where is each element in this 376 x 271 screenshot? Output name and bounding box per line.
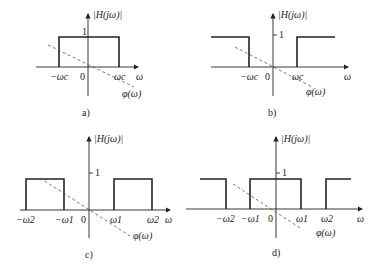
panel-d-bandstop: |H(jω)| 1 0 −ω2 −ω1 ω1 ω2 ω φ(ω) d) (186, 133, 364, 259)
x-axis-label: ω (357, 213, 364, 224)
caption-a: a) (82, 107, 90, 119)
phase-label: φ(ω) (316, 227, 336, 239)
panel-c-bandpass: |H(jω)| 1 0 −ω2 −ω1 ω1 ω2 ω φ(ω) c) (16, 133, 172, 261)
tick-neg-w2: −ω2 (16, 214, 35, 225)
magnitude-response-right (297, 37, 335, 67)
caption-d: d) (272, 247, 280, 259)
tick-neg-w1: −ω1 (241, 213, 260, 224)
tick-neg-wc: −ωc (50, 71, 69, 82)
magnitude-response-left (211, 37, 249, 67)
one-label: 1 (279, 29, 284, 40)
tick-w2: ω2 (321, 213, 333, 224)
magnitude-response-right (326, 179, 351, 209)
tick-w2: ω2 (147, 214, 159, 225)
phase-label: φ(ω) (122, 88, 142, 100)
filter-diagrams: |H(jω)| 1 0 −ωc ωc ω φ(ω) a) |H(jω)| 1 0… (0, 0, 376, 271)
x-axis-label: ω (165, 214, 172, 225)
phase-label: φ(ω) (306, 86, 326, 98)
one-label: 1 (95, 167, 100, 178)
tick-neg-w2: −ω2 (216, 213, 235, 224)
zero-label: 0 (265, 71, 270, 82)
magnitude-response-middle (250, 179, 301, 209)
phase-label: φ(ω) (133, 230, 153, 242)
y-axis-label: |H(jω)| (278, 9, 307, 21)
phase-response (40, 178, 130, 236)
x-axis-label: ω (136, 71, 143, 82)
tick-neg-wc: −ωc (240, 71, 259, 82)
zero-label: 0 (80, 71, 85, 82)
panel-a-lowpass: |H(jω)| 1 0 −ωc ωc ω φ(ω) a) (36, 9, 143, 119)
tick-neg-w1: −ω1 (55, 214, 74, 225)
magnitude-response (59, 37, 119, 67)
x-axis-label: ω (344, 71, 351, 82)
tick-wc: ωc (114, 71, 126, 82)
caption-c: c) (85, 249, 93, 261)
panel-b-highpass: |H(jω)| 1 0 −ωc ωc ω φ(ω) b) (211, 9, 351, 119)
magnitude-response-left (200, 179, 226, 209)
magnitude-response-left (26, 179, 64, 210)
zero-label: 0 (268, 213, 273, 224)
tick-w1: ω1 (110, 214, 122, 225)
zero-label: 0 (81, 214, 86, 225)
one-label: 1 (82, 26, 87, 37)
y-axis-label: |H(jω)| (281, 133, 310, 145)
caption-b: b) (268, 107, 276, 119)
magnitude-response-right (114, 179, 152, 210)
tick-wc: ωc (292, 71, 304, 82)
y-axis-label: |H(jω)| (94, 133, 123, 145)
tick-w1: ω1 (296, 213, 308, 224)
one-label: 1 (282, 167, 287, 178)
y-axis-label: |H(jω)| (93, 9, 122, 21)
